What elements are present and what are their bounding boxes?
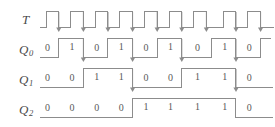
bit-value: 0 [67, 73, 77, 83]
bit-value: 1 [67, 42, 77, 52]
falling-edge-arrow [233, 69, 238, 92]
bit-value: 1 [193, 102, 203, 112]
bit-value: 1 [193, 72, 203, 82]
bit-value: 0 [193, 43, 203, 53]
bit-value: 0 [116, 103, 126, 113]
falling-edge-arrow [155, 12, 160, 32]
falling-edge-arrow [130, 69, 135, 92]
bit-value: 0 [141, 73, 151, 83]
falling-edge-arrow [258, 12, 263, 32]
waveform-canvas [0, 0, 275, 127]
bit-value: 1 [220, 102, 230, 112]
bit-value: 0 [43, 43, 53, 53]
falling-edge-arrow [81, 12, 86, 32]
bit-value: 1 [220, 72, 230, 82]
falling-edge-arrow [179, 39, 184, 62]
bit-value: 0 [166, 73, 176, 83]
bit-value: 0 [141, 43, 151, 53]
bit-value: 1 [166, 102, 176, 112]
falling-edge-arrow [105, 12, 110, 32]
bit-value: 0 [67, 103, 77, 113]
falling-edge-arrow [56, 12, 61, 32]
bit-value: 0 [92, 43, 102, 53]
bit-value: 1 [116, 72, 126, 82]
bit-value: 0 [244, 73, 254, 83]
bit-value: 1 [116, 42, 126, 52]
bit-value: 1 [166, 42, 176, 52]
falling-edge-arrow [130, 39, 135, 62]
falling-edge-arrow [81, 39, 86, 62]
bit-value: 0 [43, 103, 53, 113]
bit-value: 1 [220, 42, 230, 52]
bit-value: 0 [92, 103, 102, 113]
bit-value: 0 [244, 103, 254, 113]
bit-value: 1 [92, 72, 102, 82]
timing-diagram: T Q0 Q1 Q2 010101010001100110000011110 [0, 0, 275, 127]
falling-edge-arrow [179, 12, 184, 32]
falling-edge-arrow [233, 12, 238, 32]
falling-edge-arrow [204, 12, 209, 32]
bit-value: 1 [141, 102, 151, 112]
bit-value: 0 [244, 43, 254, 53]
bit-value: 0 [43, 73, 53, 83]
falling-edge-arrow [233, 39, 238, 62]
falling-edge-arrow [130, 12, 135, 32]
